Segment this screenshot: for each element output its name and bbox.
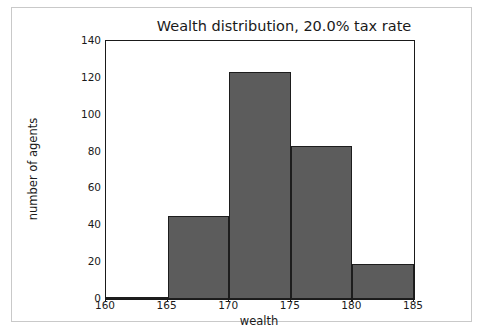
y-axis-tick-label: 60 [67,182,101,193]
x-axis-tick-label: 180 [331,300,371,311]
y-axis-tick-label: 120 [67,72,101,83]
y-axis-tick-label: 40 [67,219,101,230]
x-axis-tick-label: 165 [147,300,187,311]
plot-area [105,40,415,300]
x-axis-tick-label: 170 [208,300,248,311]
x-axis-label: wealth [105,314,413,328]
y-axis-label: number of agents [26,0,42,40]
x-axis-tick-label: 185 [393,300,433,311]
figure-canvas: Wealth distribution, 20.0% tax rate 0204… [11,7,472,322]
y-axis-label-text: number of agents [26,40,40,298]
histogram-bar [352,264,414,299]
x-axis-tick-label: 160 [85,300,125,311]
y-axis-tick-label: 20 [67,256,101,267]
chart-title-text: Wealth distribution, 20.0% tax rate [157,18,412,34]
y-axis-tick-labels: 020406080100120140 [63,40,101,298]
histogram-bar [168,216,230,299]
screenshot-root: Wealth distribution, 20.0% tax rate 0204… [0,0,484,335]
y-axis-tick-label: 140 [67,35,101,46]
histogram-bar [229,72,291,299]
x-axis-tick-label: 175 [270,300,310,311]
chart-title: Wealth distribution, 20.0% tax rate [12,18,473,34]
y-axis-tick-label: 80 [67,145,101,156]
y-axis-tick-label: 100 [67,108,101,119]
histogram-bar [291,146,353,299]
histogram-bars [106,41,414,299]
